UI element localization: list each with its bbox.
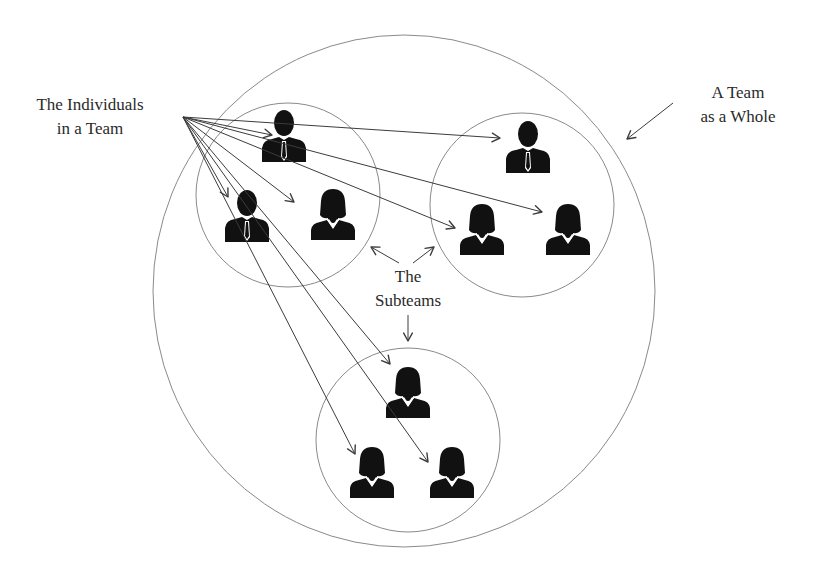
team-whole-label-line2: as a Whole bbox=[700, 105, 775, 129]
right-subteam bbox=[430, 113, 614, 297]
female-person-icon bbox=[311, 189, 355, 240]
individuals-label-line2: in a Team bbox=[36, 117, 143, 141]
arrowhead-icon bbox=[420, 453, 428, 462]
male-person-icon bbox=[506, 121, 550, 173]
subteam-arrow bbox=[404, 315, 413, 341]
team-whole-label-line1: A Team bbox=[700, 81, 775, 105]
female-person-icon bbox=[546, 204, 590, 255]
subteams-label-line2: Subteams bbox=[375, 289, 441, 313]
subteams-label: The Subteams bbox=[375, 265, 441, 313]
individual-arrow bbox=[183, 117, 355, 454]
individual-arrow bbox=[183, 117, 455, 229]
team-whole-label: A Team as a Whole bbox=[700, 81, 775, 129]
individuals-label-line1: The Individuals bbox=[36, 93, 143, 117]
female-person-icon bbox=[460, 204, 504, 255]
individual-arrow bbox=[183, 117, 542, 214]
team-whole-arrow bbox=[627, 103, 673, 139]
individuals-label: The Individuals in a Team bbox=[36, 93, 143, 141]
bottom-subteam bbox=[316, 348, 500, 532]
female-person-icon bbox=[350, 447, 394, 498]
subteam-arrow bbox=[371, 247, 399, 263]
subteams-layer bbox=[196, 103, 614, 532]
male-person-icon bbox=[225, 190, 269, 242]
subteams-label-line1: The bbox=[375, 265, 441, 289]
female-person-icon bbox=[430, 447, 474, 498]
female-person-icon bbox=[386, 367, 430, 418]
subteam-arrow bbox=[413, 247, 434, 263]
